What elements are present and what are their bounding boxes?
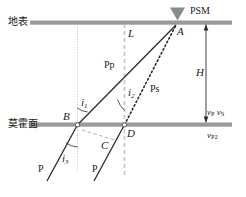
ground-surface-interface — [30, 21, 232, 25]
ray-path-diagram — [0, 0, 246, 197]
station-name-label: PSM — [190, 6, 210, 16]
angle-i1-subscript: 1 — [84, 102, 88, 110]
depth-h-label: H — [196, 67, 204, 78]
velocity-s-subscript: S — [221, 110, 225, 117]
ps-phase-label: Ps — [150, 84, 159, 94]
ground-surface-label: 地表 — [8, 17, 28, 27]
incident-p-label-right: P — [92, 164, 98, 174]
distance-l-label: L — [128, 28, 134, 39]
angle-i2-subscript: 2 — [131, 92, 135, 100]
moho-interface-label: 莫霍面 — [8, 119, 38, 129]
angle-i2-label: i2 — [128, 87, 135, 100]
point-d-label: D — [127, 128, 135, 139]
point-a-label: A — [177, 26, 184, 37]
node-point-b — [75, 123, 79, 127]
velocity-above-moho-label: vPvS — [207, 108, 224, 118]
point-b-label: B — [63, 111, 70, 122]
incident-p-label-left: P — [38, 164, 44, 174]
angle-i1-label: i1 — [81, 97, 88, 110]
point-c-label: C — [101, 140, 108, 151]
angle-i3-subscript: 3 — [65, 158, 69, 166]
velocity-below-moho-label: vP2 — [207, 131, 218, 141]
diagram-background — [0, 0, 246, 197]
velocity-p-subscript: P — [211, 110, 215, 117]
pp-phase-label: Pp — [104, 60, 115, 70]
node-point-d — [122, 123, 126, 127]
velocity-p2-subscript: P2 — [211, 133, 218, 140]
angle-i3-label: i3 — [62, 153, 69, 166]
